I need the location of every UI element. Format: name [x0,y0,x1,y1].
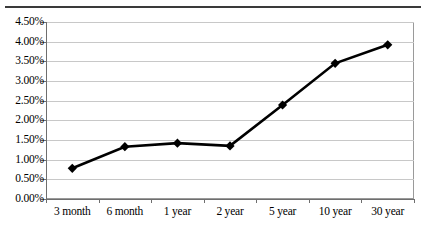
data-point-6-month [120,142,129,151]
line-chart: 0.00%0.50%1.00%1.50%2.00%2.50%3.00%3.50%… [0,14,426,226]
document-top-rule [5,6,421,8]
data-point-30-year [383,40,392,49]
data-point-3-month [68,164,77,173]
data-point-1-year [173,139,182,148]
chart-page: 0.00%0.50%1.00%1.50%2.00%2.50%3.00%3.50%… [0,0,426,226]
series-layer [0,14,426,226]
